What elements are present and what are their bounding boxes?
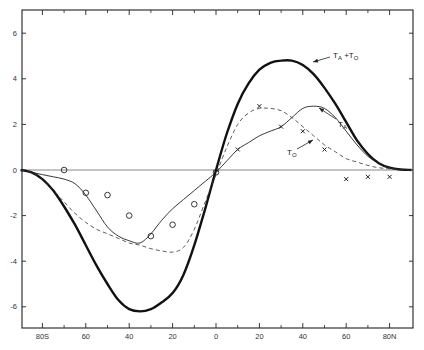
x-tick-label: 60: [342, 332, 350, 341]
series-layer: [21, 60, 412, 311]
x-tick-label: 80S: [36, 332, 49, 341]
y-tick-label: 2: [13, 120, 17, 129]
label-ta-plus-to: TA +TO: [333, 51, 359, 61]
chart: 6420-2-4-6 80S604020020406080N TA +TOTAT…: [0, 0, 424, 350]
x-marker: [366, 175, 370, 179]
arrowhead-icon: [319, 108, 324, 112]
y-tick-label: 6: [13, 29, 17, 38]
x-tick-label: 40: [299, 332, 307, 341]
x-tick-label: 80N: [383, 332, 397, 341]
circle-marker: [105, 192, 111, 198]
x-tick-label: 60: [82, 332, 90, 341]
circle-marker: [192, 201, 198, 207]
arrowhead-icon: [313, 59, 318, 63]
circle-marker: [126, 213, 132, 219]
x-marker: [344, 177, 348, 181]
y-tick-label: 0: [13, 166, 17, 175]
arrowhead-icon: [308, 140, 313, 144]
y-tick-label: -2: [10, 211, 17, 220]
x-marker: [323, 147, 327, 151]
x-marker: [257, 104, 261, 108]
x-tick-label: 40: [125, 332, 133, 341]
annotations-layer: TA +TOTATO: [287, 51, 359, 158]
circle-marker: [170, 222, 176, 228]
x-marker: [279, 125, 283, 129]
y-tick-label: -6: [10, 302, 17, 311]
x-marker: [301, 129, 305, 133]
curve-ta-plus-to: [21, 60, 412, 311]
x-marker: [236, 147, 240, 151]
label-to: TO: [287, 148, 297, 158]
x-tick-label: 20: [168, 332, 176, 341]
x-tick-label: 0: [214, 332, 218, 341]
y-tick-label: 4: [13, 74, 17, 83]
x-tick-label: 20: [255, 332, 263, 341]
y-tick-label: -4: [10, 257, 17, 266]
x-marker: [388, 175, 392, 179]
